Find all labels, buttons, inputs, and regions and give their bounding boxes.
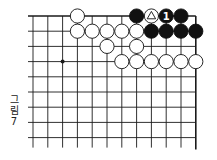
caption-char: 림 [6, 105, 22, 116]
move-number-label: 1 [163, 11, 170, 22]
black-stone: 1 [159, 9, 173, 23]
white-stone [70, 24, 84, 38]
black-stone [174, 24, 188, 38]
black-stone [159, 24, 173, 38]
black-stone [130, 9, 144, 23]
caption-char: 7 [6, 116, 22, 127]
black-stone [189, 24, 203, 38]
white-stone [174, 55, 188, 69]
white-stone [100, 24, 114, 38]
white-stone [130, 24, 144, 38]
white-stone [159, 55, 173, 69]
go-board-diagram: 1 [0, 0, 217, 160]
white-stone [70, 9, 84, 23]
white-stone [130, 55, 144, 69]
black-stone [174, 9, 188, 23]
black-stone [144, 24, 158, 38]
white-stone [144, 55, 158, 69]
white-stone [100, 39, 114, 53]
star-points [61, 60, 65, 64]
star-point [61, 60, 65, 64]
white-stone [85, 24, 99, 38]
white-stone [144, 9, 158, 23]
white-stone [189, 55, 203, 69]
figure-caption: 그 림 7 [6, 94, 22, 127]
white-stone [115, 24, 129, 38]
caption-char: 그 [6, 94, 22, 105]
white-stone [115, 55, 129, 69]
white-stone [130, 39, 144, 53]
